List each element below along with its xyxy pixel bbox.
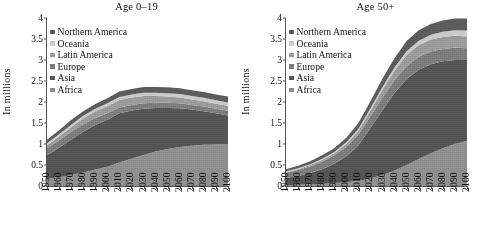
legend-swatch-icon — [289, 53, 294, 58]
y-tick-mark — [283, 81, 286, 82]
x-tick-label: 1950 — [280, 172, 290, 192]
legend-item-label: Europe — [297, 61, 325, 73]
y-axis-label: In millions — [240, 68, 251, 115]
legend-item[interactable]: Africa — [50, 84, 127, 96]
legend: Northern AmericaOceaniaLatin AmericaEuro… — [289, 26, 366, 96]
y-tick-mark — [44, 123, 47, 124]
legend-item-label: Latin America — [297, 49, 352, 61]
legend-item-label: Asia — [297, 72, 315, 84]
legend-swatch-icon — [289, 30, 294, 35]
legend-item-label: Northern America — [297, 26, 367, 38]
x-tick-label: 2080 — [437, 172, 447, 192]
x-tick-label: 2070 — [425, 172, 435, 192]
y-tick-mark — [44, 18, 47, 19]
y-tick-mark — [283, 60, 286, 61]
x-tick-label: 2010 — [352, 172, 362, 192]
panel-title: Age 0–19 — [0, 1, 239, 12]
y-tick-mark — [44, 165, 47, 166]
x-tick-label: 1970 — [304, 172, 314, 192]
x-tick-label: 1970 — [65, 172, 75, 192]
legend-swatch-icon — [50, 41, 55, 46]
panel-title: Age 50+ — [239, 1, 478, 12]
y-tick-mark — [44, 60, 47, 61]
legend-item-label: Europe — [58, 61, 86, 73]
legend-swatch-icon — [289, 64, 294, 69]
legend-swatch-icon — [289, 76, 294, 81]
stacked-area-figure: Age 0–19 In millions 00.511.522.533.54 1… — [0, 0, 478, 252]
x-tick-label: 2010 — [113, 172, 123, 192]
x-tick-label: 2100 — [222, 172, 232, 192]
legend-item-label: Asia — [58, 72, 76, 84]
x-tick-label: 1950 — [41, 172, 51, 192]
x-tick-label: 2020 — [125, 172, 135, 192]
x-tick-label: 2030 — [138, 172, 148, 192]
legend-swatch-icon — [289, 41, 294, 46]
legend-item[interactable]: Oceania — [289, 38, 366, 50]
y-tick-mark — [283, 165, 286, 166]
legend-swatch-icon — [50, 30, 55, 35]
x-tick-label: 2000 — [101, 172, 111, 192]
x-tick-label: 1990 — [328, 172, 338, 192]
panel-age-50-plus: Age 50+ In millions 00.511.522.533.54 19… — [239, 0, 478, 252]
y-tick-mark — [283, 39, 286, 40]
legend-item[interactable]: Asia — [289, 72, 366, 84]
legend-item-label: Latin America — [58, 49, 113, 61]
legend: Northern AmericaOceaniaLatin AmericaEuro… — [50, 26, 127, 96]
x-tick-label: 2000 — [340, 172, 350, 192]
y-tick-mark — [44, 81, 47, 82]
x-tick-label: 2090 — [449, 172, 459, 192]
legend-item[interactable]: Northern America — [289, 26, 366, 38]
legend-swatch-icon — [289, 88, 294, 93]
x-tick-label: 2100 — [461, 172, 471, 192]
x-tick-label: 2070 — [186, 172, 196, 192]
panel-age-0-19: Age 0–19 In millions 00.511.522.533.54 1… — [0, 0, 239, 252]
legend-swatch-icon — [50, 53, 55, 58]
legend-swatch-icon — [50, 88, 55, 93]
y-tick-mark — [283, 144, 286, 145]
legend-swatch-icon — [50, 76, 55, 81]
legend-item[interactable]: Europe — [289, 61, 366, 73]
y-tick-mark — [44, 39, 47, 40]
legend-item[interactable]: Africa — [289, 84, 366, 96]
x-tick-label: 2040 — [389, 172, 399, 192]
x-tick-label: 2060 — [174, 172, 184, 192]
x-tick-label: 2050 — [401, 172, 411, 192]
legend-item[interactable]: Latin America — [289, 49, 366, 61]
legend-item-label: Africa — [58, 84, 83, 96]
legend-item[interactable]: Latin America — [50, 49, 127, 61]
legend-item[interactable]: Europe — [50, 61, 127, 73]
y-tick-mark — [283, 102, 286, 103]
y-tick-mark — [283, 18, 286, 19]
legend-swatch-icon — [50, 64, 55, 69]
y-tick-mark — [283, 123, 286, 124]
legend-item[interactable]: Northern America — [50, 26, 127, 38]
x-tick-label: 2040 — [150, 172, 160, 192]
x-tick-label: 1980 — [77, 172, 87, 192]
legend-item-label: Oceania — [58, 38, 89, 50]
x-tick-label: 1960 — [292, 172, 302, 192]
y-axis-label: In millions — [1, 68, 12, 115]
x-tick-label: 1980 — [316, 172, 326, 192]
x-tick-label: 2090 — [210, 172, 220, 192]
y-tick-mark — [44, 144, 47, 145]
x-tick-label: 2050 — [162, 172, 172, 192]
legend-item[interactable]: Oceania — [50, 38, 127, 50]
x-tick-label: 2030 — [377, 172, 387, 192]
x-tick-label: 2080 — [198, 172, 208, 192]
x-tick-label: 2020 — [364, 172, 374, 192]
y-tick-mark — [44, 102, 47, 103]
legend-item[interactable]: Asia — [50, 72, 127, 84]
legend-item-label: Oceania — [297, 38, 328, 50]
legend-item-label: Northern America — [58, 26, 128, 38]
x-tick-label: 1960 — [53, 172, 63, 192]
x-tick-label: 1990 — [89, 172, 99, 192]
legend-item-label: Africa — [297, 84, 322, 96]
x-tick-label: 2060 — [413, 172, 423, 192]
